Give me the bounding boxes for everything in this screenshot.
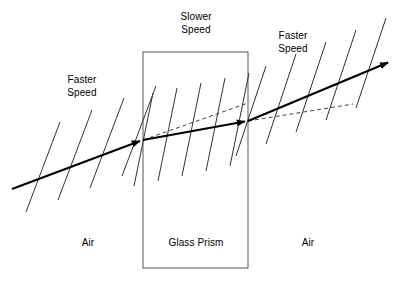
refraction-diagram: Slower Speed Faster Speed Faster Speed A…	[0, 0, 412, 286]
wavefront-line	[26, 122, 60, 212]
label-faster-speed-left: Faster Speed	[42, 74, 122, 99]
wavefront-line	[356, 18, 386, 108]
wavefront-line	[236, 66, 266, 156]
label-glass-prism: Glass Prism	[155, 237, 237, 249]
wavefront-line	[266, 54, 296, 144]
wavefront-line	[90, 98, 124, 188]
wavefront-group-air-left	[26, 86, 156, 212]
incident-ray	[12, 141, 140, 189]
label-air-right: Air	[268, 237, 348, 249]
label-slower-speed: Slower Speed	[156, 11, 236, 36]
wavefront-line	[230, 73, 249, 166]
wavefront-group-glass	[134, 73, 249, 186]
label-air-left: Air	[48, 237, 128, 249]
wavefront-line	[206, 78, 225, 171]
refracted-ray-in-glass	[143, 122, 245, 141]
label-faster-speed-right: Faster Speed	[253, 30, 333, 55]
wavefront-line	[58, 110, 92, 200]
glass-prism-rect	[143, 52, 248, 268]
wavefront-line	[296, 42, 326, 132]
emergent-ray	[248, 63, 388, 122]
